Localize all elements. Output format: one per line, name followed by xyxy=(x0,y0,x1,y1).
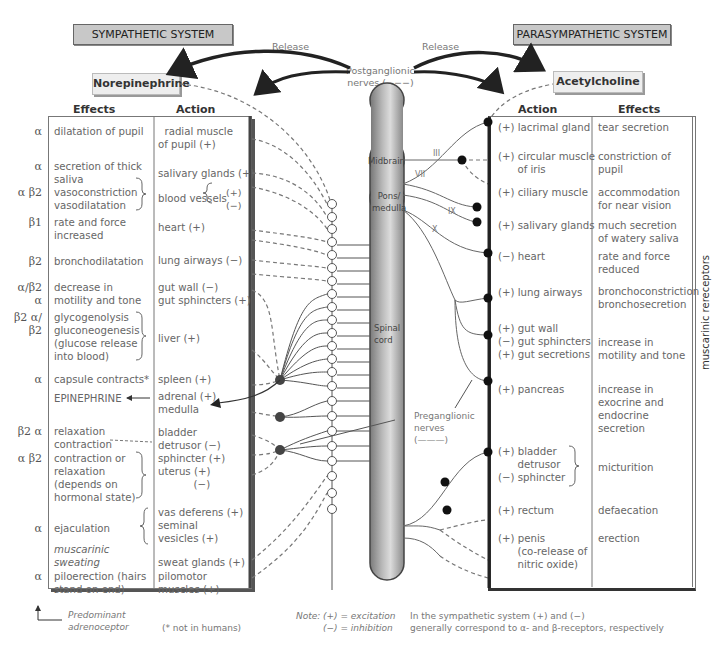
para-effect: much secretion of watery saliva xyxy=(598,219,679,245)
para-effect: erection xyxy=(598,532,640,545)
para-effect: rate and force reduced xyxy=(598,250,670,276)
para-action: (+) lacrimal gland xyxy=(498,121,590,134)
preganglionic-leader-right xyxy=(455,380,472,408)
sym-action: vas deferens (+) seminal vesicles (+) xyxy=(158,506,243,545)
sym-receptor: α xyxy=(16,160,42,173)
sym-effect: secretion of thick saliva xyxy=(54,160,142,186)
para-cranial-nerves xyxy=(403,122,488,556)
nerve-III-label: III xyxy=(433,148,440,160)
sym-receptor: α β2 xyxy=(16,186,42,199)
sym-effect: ejaculation xyxy=(54,522,110,535)
predominant-adrenoceptor-label: Predominant adrenoceptor xyxy=(68,609,129,633)
para-effect: increase in exocrine and endocrine secre… xyxy=(598,383,664,435)
para-effect: tear secretion xyxy=(598,121,669,134)
release-arrow-right-outer xyxy=(414,53,540,68)
sym-preganglionic-nerves xyxy=(280,294,327,461)
sym-action: adrenal (+) medulla xyxy=(158,390,216,416)
preganglionic-label: Preganglionic nerves (———) xyxy=(414,410,475,446)
para-action: (+) bladder detrusor (−) sphincter xyxy=(498,445,565,484)
sym-action: gut wall (−) gut sphincters (+) xyxy=(158,281,251,307)
sym-effect-epinephrine: EPINEPHRINE xyxy=(54,392,122,405)
contraction-dashed-pointer xyxy=(110,440,152,442)
release-arrow-right-inner xyxy=(414,72,500,90)
sym-action: heart (+) xyxy=(158,221,205,234)
sym-receptor: α xyxy=(16,522,42,535)
sym-action: sphincter (+) uterus (+) (−) xyxy=(158,452,225,491)
sym-effect-muscarinic: muscarinic sweating xyxy=(54,543,109,569)
para-action: (+) circular muscle of iris xyxy=(498,150,595,176)
pons-label: Pons/ medulla xyxy=(372,190,406,214)
sym-action: pilomotor muscles (+) xyxy=(158,570,219,596)
para-action: (+) rectum xyxy=(498,504,554,517)
sym-effect: bronchodilatation xyxy=(54,255,144,268)
sym-receptor: β2 α/β2 xyxy=(10,311,42,337)
para-action: (−) heart xyxy=(498,250,545,263)
sym-receptor: α xyxy=(16,570,42,583)
release-arrow-left-outer xyxy=(172,51,350,72)
sym-effect: piloerection (hairs stand on end) xyxy=(54,570,146,596)
note-receptor-correspondence: In the sympathetic system (+) and (−) ge… xyxy=(410,610,664,634)
sym-effect: vasoconstriction vasodilatation xyxy=(54,186,138,212)
para-effect: accommodation for near vision xyxy=(598,186,680,212)
para-effect: bronchoconstriction bronchosecretion xyxy=(598,285,699,311)
nerve-IX-label: IX xyxy=(448,206,456,218)
sym-effect: contraction or relaxation (depends on ho… xyxy=(54,452,135,504)
sym-effect: capsule contracts* xyxy=(54,373,149,386)
sym-collateral-ganglia xyxy=(275,375,285,455)
sym-receptor: α β2 xyxy=(16,452,42,465)
para-brace xyxy=(569,446,579,486)
nerve-VII-label: VII xyxy=(415,169,425,181)
para-action: (+) penis (co-release of nitric oxide) xyxy=(498,532,587,571)
sym-action: salivary glands (+) xyxy=(158,167,254,180)
sym-receptor: α xyxy=(16,373,42,386)
muscarinic-receptors-label: muscarinic rereceptors xyxy=(700,170,711,370)
sym-action: sweat glands (+) xyxy=(158,556,245,569)
sym-action: liver (+) xyxy=(158,332,200,345)
para-action: (+) gut wall (−) gut sphincters (+) gut … xyxy=(498,322,591,361)
para-action: (+) salivary glands xyxy=(498,219,594,232)
release-arrow-left-inner xyxy=(258,72,350,92)
sym-action-signs: (+) (−) xyxy=(226,186,241,212)
para-action: (+) pancreas xyxy=(498,383,564,396)
para-ganglia xyxy=(441,118,493,515)
sym-effect: dilatation of pupil xyxy=(54,125,143,138)
spinal-cord-label: Spinal cord xyxy=(374,322,400,346)
para-effect: increase in motility and tone xyxy=(598,323,685,362)
sym-receptor: α/β2 α xyxy=(10,281,42,307)
midbrain-label: Midbrain xyxy=(368,155,405,167)
sym-receptor: α xyxy=(16,125,42,138)
not-in-humans-note: (* not in humans) xyxy=(162,622,241,634)
sym-receptor: β2 xyxy=(16,255,42,268)
sym-action: lung airways (−) xyxy=(158,254,242,267)
sym-effect: rate and force increased xyxy=(54,216,126,242)
note-excitation: (+) = excitation xyxy=(323,610,395,622)
sym-postganglionic-nerves xyxy=(180,84,330,578)
para-effect: defaecation xyxy=(598,504,658,517)
sym-action: spleen (+) xyxy=(158,373,211,386)
note-inhibition: (−) = inhibition xyxy=(323,622,393,634)
sym-effect: relaxation contraction xyxy=(54,425,112,451)
sympathetic-rami xyxy=(337,245,370,461)
para-effect: constriction of pupil xyxy=(598,150,671,176)
sym-receptor: β1 xyxy=(16,216,42,229)
para-action: (+) ciliary muscle xyxy=(498,186,588,199)
nerve-X-label: X xyxy=(432,224,437,236)
note-label: Note: xyxy=(296,610,320,622)
sym-action: bladder detrusor (−) xyxy=(158,426,221,452)
sym-effect: glycogenolysis gluconeogenesis (glucose … xyxy=(54,311,139,363)
para-effect: micturition xyxy=(598,448,653,474)
sym-receptor: β2 α xyxy=(16,425,42,438)
sym-action: blood vessels xyxy=(158,192,227,205)
sym-effect: decrease in motility and tone xyxy=(54,281,141,307)
para-action: (+) lung airways xyxy=(498,286,582,299)
sym-action: radial muscle of pupil (+) xyxy=(158,125,233,151)
